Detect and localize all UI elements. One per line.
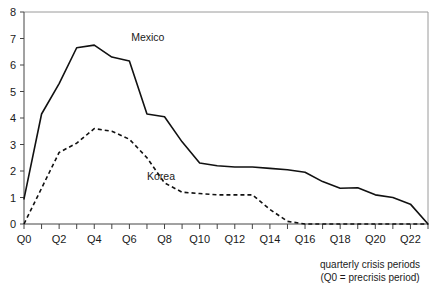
y-axis-ticks — [20, 12, 24, 224]
x-tick-label: Q8 — [157, 233, 172, 245]
series-label-korea: Korea — [147, 170, 175, 182]
y-tick-label: 0 — [10, 218, 16, 230]
series-line-mexico — [24, 45, 428, 224]
line-chart-mexico-korea: 012345678 Q0Q2Q4Q6Q8Q10Q12Q14Q16Q18Q20Q2… — [0, 0, 436, 289]
x-axis-tick-labels: Q0Q2Q4Q6Q8Q10Q12Q14Q16Q18Q20Q22 — [17, 233, 421, 245]
x-tick-label: Q2 — [52, 233, 67, 245]
x-tick-label: Q10 — [189, 233, 210, 245]
x-tick-label: Q22 — [400, 233, 421, 245]
y-tick-label: 6 — [10, 59, 16, 71]
series-inline-labels: MexicoKorea — [131, 31, 175, 182]
x-axis-caption-line1: quarterly crisis periods — [320, 259, 420, 270]
y-tick-label: 7 — [10, 33, 16, 45]
series-line-korea — [24, 129, 428, 224]
data-series-group — [24, 45, 428, 224]
x-tick-label: Q6 — [122, 233, 137, 245]
chart-figure: 012345678 Q0Q2Q4Q6Q8Q10Q12Q14Q16Q18Q20Q2… — [0, 0, 436, 289]
y-tick-label: 2 — [10, 165, 16, 177]
x-tick-label: Q0 — [17, 233, 32, 245]
y-tick-label: 1 — [10, 192, 16, 204]
x-tick-label: Q20 — [365, 233, 386, 245]
y-tick-label: 8 — [10, 6, 16, 18]
x-tick-label: Q16 — [295, 233, 316, 245]
y-tick-label: 3 — [10, 139, 16, 151]
x-axis-caption-line2: (Q0 = precrisis period) — [320, 272, 419, 283]
y-tick-label: 5 — [10, 86, 16, 98]
x-tick-label: Q12 — [224, 233, 245, 245]
x-tick-label: Q4 — [87, 233, 102, 245]
x-tick-label: Q14 — [260, 233, 281, 245]
y-tick-label: 4 — [10, 112, 16, 124]
x-tick-label: Q18 — [330, 233, 351, 245]
y-axis-tick-labels: 012345678 — [10, 6, 16, 230]
series-label-mexico: Mexico — [131, 31, 164, 43]
